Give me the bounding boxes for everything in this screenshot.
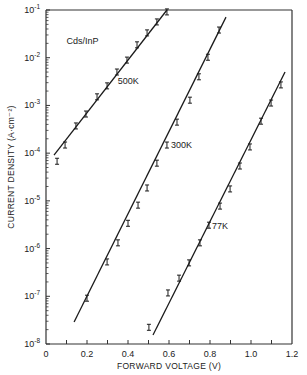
x-tick-label: 0.4 xyxy=(122,349,135,359)
annotation-label: 77K xyxy=(212,221,228,231)
y-axis-title: CURRENT DENSITY (A·cm⁻²) xyxy=(6,105,16,228)
annotation-label: Cds/InP xyxy=(67,36,99,46)
iv-characteristics-chart: 10-110-210-310-410-510-610-710-8 00.20.4… xyxy=(0,0,307,375)
x-tick-label: 1.2 xyxy=(286,349,299,359)
x-tick-label: 0.2 xyxy=(81,349,94,359)
x-axis-title: FORWARD VOLTAGE (V) xyxy=(117,361,221,371)
annotation-label: 500K xyxy=(118,76,139,86)
x-tick-label: 0 xyxy=(43,349,48,359)
x-tick-label: 0.8 xyxy=(204,349,217,359)
annotation-label: 300K xyxy=(171,140,192,150)
x-tick-label: 0.6 xyxy=(163,349,176,359)
x-tick-label: 1.0 xyxy=(245,349,258,359)
